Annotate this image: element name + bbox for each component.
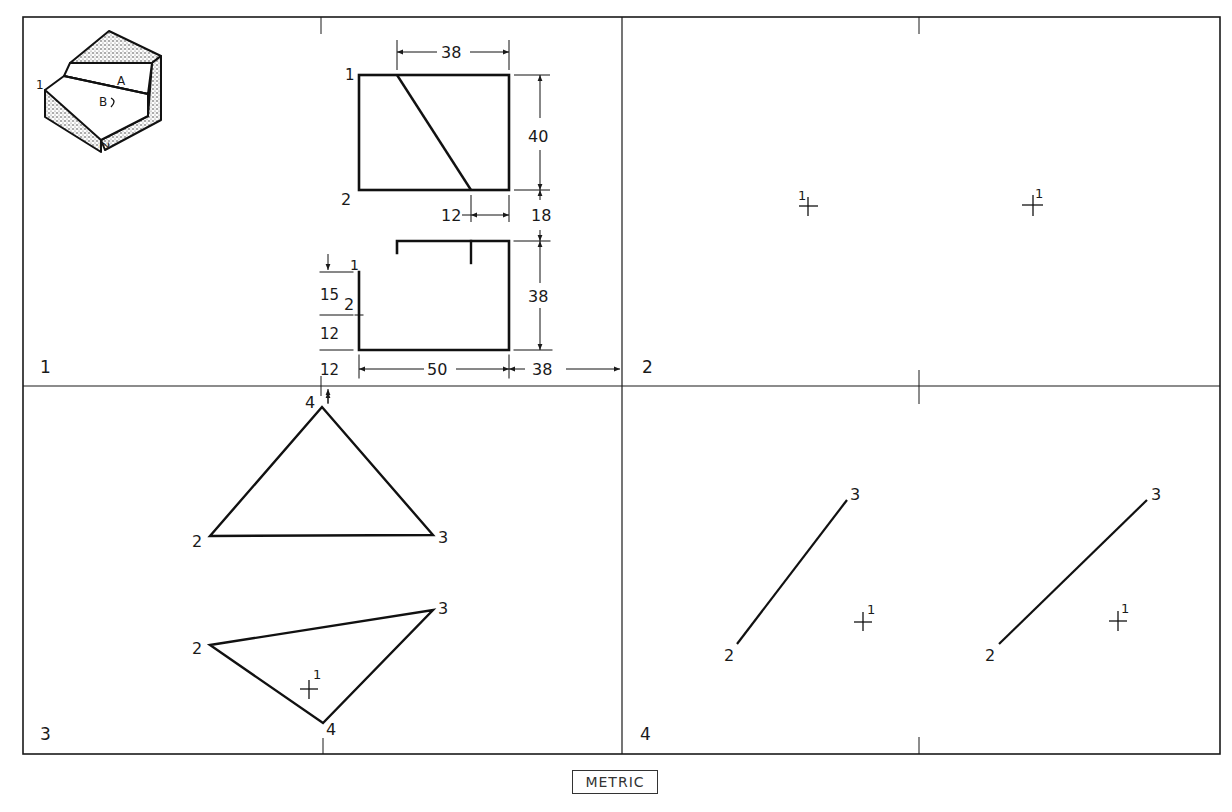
front-view-point-1: 1 bbox=[350, 257, 359, 273]
sheet-frame bbox=[23, 17, 1220, 754]
pictorial-point-2: 2 bbox=[98, 141, 112, 149]
top-view-corner-1: 1 bbox=[345, 66, 355, 84]
lower-triangle-point-3: 3 bbox=[438, 599, 448, 618]
drawing-sheet: 1 2 3 4 1 A B 2 bbox=[0, 0, 1232, 812]
panel-number-3: 3 bbox=[40, 724, 51, 744]
pictorial-block bbox=[45, 31, 161, 152]
upper-triangle-point-4: 4 bbox=[305, 393, 315, 412]
pictorial-surface-a: A bbox=[117, 74, 126, 88]
top-view-corner-2: 2 bbox=[341, 190, 351, 209]
right-line-point-3: 3 bbox=[1151, 485, 1161, 504]
dim-top-height: 40 bbox=[528, 127, 548, 146]
panel-4-points bbox=[854, 611, 1127, 631]
dim-top-width: 38 bbox=[441, 43, 461, 62]
dim-left-12b: 12 bbox=[320, 361, 339, 379]
dim-front-width: 50 bbox=[427, 360, 447, 379]
right-line-point-2: 2 bbox=[985, 646, 995, 665]
right-point-1: 1 bbox=[1121, 601, 1129, 616]
lower-triangle-point-4: 4 bbox=[326, 720, 336, 739]
upper-triangle-point-2: 2 bbox=[192, 532, 202, 551]
front-view-dimensions bbox=[328, 241, 620, 404]
upper-triangle-point-3: 3 bbox=[438, 528, 448, 547]
top-view-dimensions bbox=[397, 52, 540, 241]
lower-triangle-point-2: 2 bbox=[192, 639, 202, 658]
panel-number-2: 2 bbox=[642, 357, 653, 377]
dim-top-offset: 12 bbox=[441, 206, 461, 225]
pictorial-surface-b: B bbox=[99, 95, 107, 109]
panel-2-point-1-right: 1 bbox=[1035, 186, 1043, 201]
dim-left-15: 15 bbox=[320, 286, 339, 304]
dim-front-right-offset: 38 bbox=[532, 360, 552, 379]
panel-3-point-1 bbox=[300, 680, 318, 699]
left-point-1: 1 bbox=[867, 602, 875, 617]
panel-2-points bbox=[799, 195, 1043, 216]
top-view bbox=[359, 40, 550, 222]
front-view-point-2: 2 bbox=[344, 295, 354, 314]
dim-gap: 18 bbox=[531, 206, 551, 225]
panel-2-point-1-left: 1 bbox=[798, 188, 806, 203]
panel-3-lower-triangle bbox=[210, 610, 433, 723]
panel-number-4: 4 bbox=[640, 724, 651, 744]
dim-front-height: 38 bbox=[528, 287, 548, 306]
left-line-point-3: 3 bbox=[850, 485, 860, 504]
units-label: METRIC bbox=[572, 770, 658, 794]
panel-3-upper-triangle bbox=[210, 407, 433, 536]
lower-triangle-point-1: 1 bbox=[313, 667, 321, 682]
left-line-point-2: 2 bbox=[724, 646, 734, 665]
panel-number-1: 1 bbox=[40, 357, 51, 377]
pictorial-point-1: 1 bbox=[36, 78, 44, 92]
panel-4-lines bbox=[737, 500, 1147, 644]
dim-left-12a: 12 bbox=[320, 325, 339, 343]
